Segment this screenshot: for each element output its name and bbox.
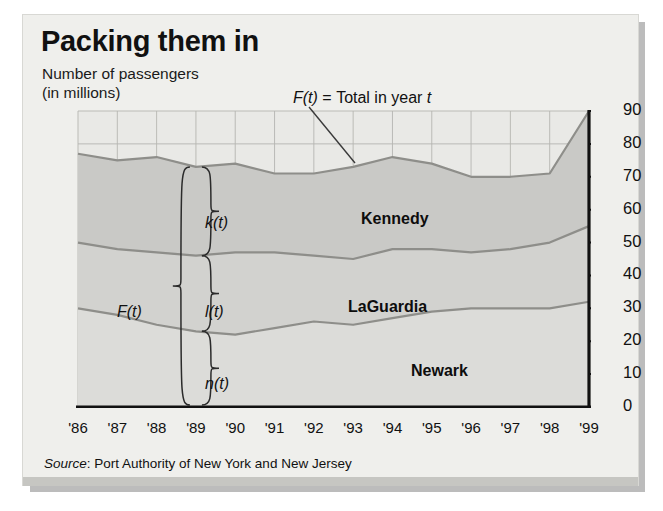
- page-title: Packing them in: [41, 25, 259, 58]
- x-axis-tick-label: '91: [265, 419, 285, 436]
- plot-area: [56, 110, 591, 408]
- y-axis-tick-label: 80: [623, 133, 653, 152]
- brace-label-total: F(t): [117, 303, 142, 321]
- y-axis-tick-label: 20: [623, 330, 653, 349]
- chart-figure: Packing them in Number of passengers (in…: [0, 0, 663, 511]
- callout-function: F(t): [293, 89, 318, 106]
- stacked-area-chart: [56, 110, 591, 408]
- y-axis-tick-label: 0: [623, 396, 653, 415]
- x-axis-tick-label: '89: [186, 419, 206, 436]
- x-axis-tick-label: '90: [225, 419, 245, 436]
- x-axis-tick-label: '99: [579, 419, 599, 436]
- y-axis-tick-label: 10: [623, 363, 653, 382]
- x-axis-tick-label: '87: [108, 419, 128, 436]
- chart-subtitle-line2: (in millions): [42, 83, 120, 102]
- x-axis-tick-label: '97: [501, 419, 521, 436]
- y-axis-tick-label: 60: [623, 199, 653, 218]
- y-axis-labels: 0102030405060708090: [613, 110, 653, 408]
- source-note: Source: Port Authority of New York and N…: [44, 456, 352, 471]
- y-axis-tick-label: 70: [623, 166, 653, 185]
- x-axis-tick-label: '93: [343, 419, 363, 436]
- callout-text: Total in year: [336, 89, 422, 106]
- x-axis-tick-label: '86: [68, 419, 88, 436]
- y-axis-tick-label: 30: [623, 297, 653, 316]
- x-axis-tick-label: '98: [540, 419, 560, 436]
- layer-label-kennedy: Kennedy: [361, 210, 429, 228]
- y-axis-tick-label: 90: [623, 100, 653, 119]
- layer-label-newark: Newark: [411, 362, 468, 380]
- footer-bar: [23, 477, 638, 486]
- callout-variable: t: [427, 89, 431, 106]
- x-axis-tick-label: '94: [383, 419, 403, 436]
- x-axis-tick-label: '88: [147, 419, 167, 436]
- layer-label-laguardia: LaGuardia: [348, 298, 427, 316]
- callout-equals: =: [322, 89, 331, 106]
- y-axis-tick-label: 40: [623, 264, 653, 283]
- brace-label-kennedy: k(t): [205, 214, 228, 232]
- brace-label-newark: n(t): [205, 375, 229, 393]
- brace-label-laguardia: l(t): [205, 303, 224, 321]
- x-axis-tick-label: '95: [422, 419, 442, 436]
- y-axis-tick-label: 50: [623, 232, 653, 251]
- source-text: : Port Authority of New York and New Jer…: [87, 456, 352, 471]
- source-prefix: Source: [44, 456, 87, 471]
- x-axis-tick-label: '96: [461, 419, 481, 436]
- chart-card: Packing them in Number of passengers (in…: [22, 14, 639, 486]
- total-callout-label: F(t) = Total in year t: [293, 89, 431, 107]
- x-axis-tick-label: '92: [304, 419, 324, 436]
- x-axis-labels: '86'87'88'89'90'91'92'93'94'95'96'97'98'…: [56, 419, 616, 445]
- chart-subtitle-line1: Number of passengers: [42, 64, 199, 83]
